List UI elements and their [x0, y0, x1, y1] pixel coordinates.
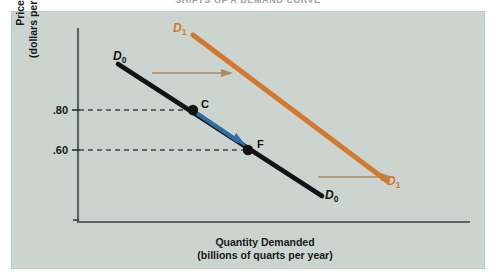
- y-axis-label-line2: (dollars per quart): [27, 0, 40, 68]
- point-label-f: F: [257, 138, 264, 150]
- point-label-c: C: [201, 98, 209, 110]
- x-axis-label-line2: (billions of quarts per year): [120, 249, 410, 262]
- curve-label-d1-bottom-letter: D: [387, 174, 396, 188]
- curve-label-d1-bottom: D1: [387, 174, 400, 190]
- curve-label-d0-bottom-letter: D: [325, 188, 334, 202]
- chart-panel: [12, 12, 484, 268]
- curve-label-d0-top: D0: [113, 49, 126, 65]
- curve-label-d1-top-sub: 1: [182, 27, 187, 37]
- curve-label-d0-top-sub: 0: [122, 55, 127, 65]
- ytick-label-60: .60: [40, 144, 68, 156]
- curve-label-d0-top-letter: D: [113, 49, 122, 63]
- y-axis-label: Price (dollars per quart): [14, 0, 40, 68]
- curve-label-d0-bottom: D0: [325, 188, 338, 204]
- y-axis-label-line1: Price: [14, 0, 27, 68]
- curve-label-d1-top-letter: D: [173, 21, 182, 35]
- x-axis-label-line1: Quantity Demanded: [120, 236, 410, 249]
- curve-label-d1-bottom-sub: 1: [396, 180, 401, 190]
- figure-title: SHIFTS OF A DEMAND CURVE: [0, 0, 496, 5]
- curve-label-d0-bottom-sub: 0: [334, 194, 339, 204]
- curve-label-d1-top: D1: [173, 21, 186, 37]
- x-axis-label: Quantity Demanded (billions of quarts pe…: [120, 236, 410, 262]
- ytick-label-80: .80: [40, 104, 68, 116]
